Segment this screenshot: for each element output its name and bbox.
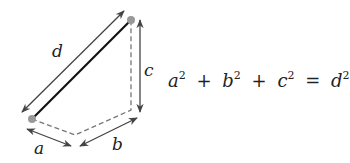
arrow-d [22,11,124,112]
label-c: c [144,60,154,80]
exp-d: 2 [343,69,350,82]
exp-a: 2 [179,69,186,82]
term-a: a [168,70,179,91]
exp-c: 2 [287,69,294,82]
diagonal-line [32,20,131,119]
dashed-path [32,20,131,135]
label-b: b [112,134,123,154]
label-a: a [34,138,44,158]
plus-1: + [196,70,211,91]
point-start [28,115,36,123]
label-d: d [52,41,63,61]
term-b: b [222,70,234,91]
exp-b: 2 [234,69,241,82]
equation: a2 + b2 + c2 = d2 [168,70,350,91]
term-c: c [277,70,287,91]
point-end [127,16,135,24]
equals-sign: = [305,70,320,91]
term-d: d [331,70,343,91]
arrow-b [80,118,137,146]
plus-2: + [252,70,267,91]
